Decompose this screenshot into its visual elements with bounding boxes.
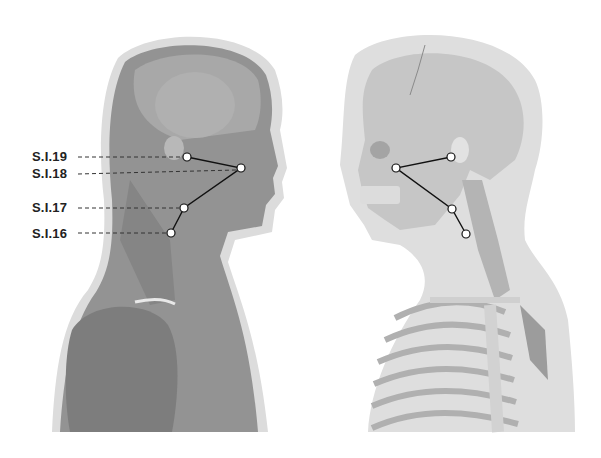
label-si17: S.I.17: [32, 201, 67, 215]
acupoint-si18-left: [237, 164, 245, 172]
eye-socket: [370, 141, 390, 159]
anatomy-diagram: [0, 0, 601, 458]
ear-region: [164, 136, 184, 160]
acupoint-si17-left: [180, 204, 188, 212]
acupoint-si18-right: [392, 164, 400, 172]
acupoint-si16-left: [167, 229, 175, 237]
label-si18: S.I.18: [32, 167, 67, 181]
teeth: [360, 186, 400, 204]
temporalis-muscle: [155, 72, 235, 138]
acupoint-si16-right: [462, 230, 470, 238]
humerus: [490, 305, 498, 432]
acupoint-si19-right: [447, 153, 455, 161]
acupoint-si17-right: [448, 205, 456, 213]
label-si19: S.I.19: [32, 150, 67, 164]
skeleton-view-figure: [340, 35, 575, 432]
acupoint-si19-left: [183, 153, 191, 161]
shoulder-muscle: [66, 307, 178, 432]
label-si16: S.I.16: [32, 227, 67, 241]
